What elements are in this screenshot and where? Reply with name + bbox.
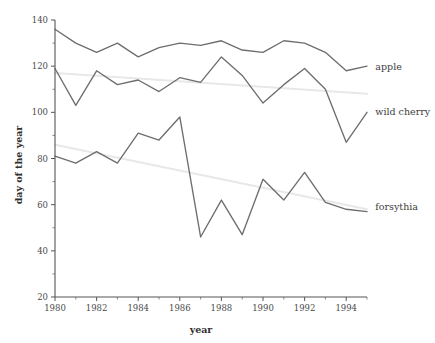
y-tick-label: 80	[37, 154, 48, 164]
x-tick-label: 1994	[335, 303, 357, 313]
y-tick-label: 120	[32, 61, 48, 71]
y-tick-label: 140	[32, 15, 48, 25]
y-axis-title: day of the year	[13, 125, 24, 205]
tick-layer: 2040608010012014019801982198419861988199…	[32, 15, 367, 313]
x-tick-label: 1980	[44, 303, 66, 313]
series-label-layer: applewild cherryforsythia	[375, 61, 430, 212]
series-label-wild-cherry: wild cherry	[375, 106, 430, 117]
chart-figure: 2040608010012014019801982198419861988199…	[0, 0, 435, 343]
data-series-layer	[55, 29, 367, 237]
x-tick-label: 1988	[211, 303, 233, 313]
trend-line-layer	[55, 73, 367, 209]
series-line-apple	[55, 29, 367, 71]
x-tick-label: 1984	[127, 303, 149, 313]
y-tick-label: 60	[37, 200, 48, 210]
x-axis-title: year	[189, 324, 214, 335]
series-label-apple: apple	[375, 61, 402, 72]
axis-layer	[55, 20, 367, 297]
y-tick-label: 100	[32, 107, 48, 117]
x-tick-label: 1982	[86, 303, 108, 313]
y-tick-label: 40	[37, 246, 48, 256]
x-tick-label: 1990	[252, 303, 274, 313]
line-chart-canvas: 2040608010012014019801982198419861988199…	[0, 0, 435, 343]
y-tick-label: 20	[37, 292, 48, 302]
x-tick-label: 1986	[169, 303, 191, 313]
series-label-forsythia: forsythia	[375, 201, 418, 212]
x-tick-label: 1992	[294, 303, 316, 313]
series-line-wild-cherry	[55, 57, 367, 142]
